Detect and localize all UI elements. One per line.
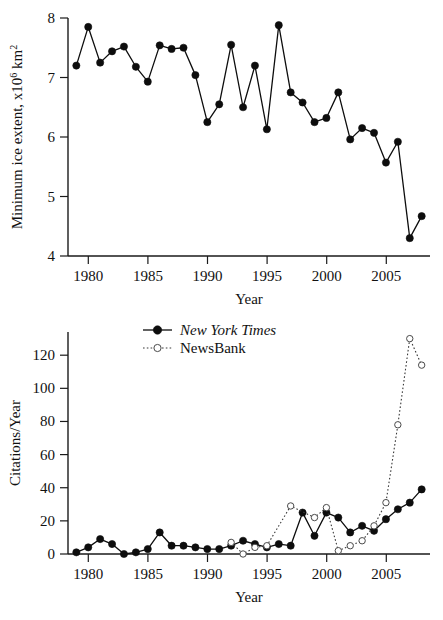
cite-y-axis-title: Citations/Year xyxy=(7,400,23,486)
caption-fragment xyxy=(0,610,443,620)
ice-extent-data-point xyxy=(370,129,377,136)
ice-ytick-label-7: 7 xyxy=(48,70,56,86)
ice-extent-data-point xyxy=(359,124,366,131)
ice-extent-data-point xyxy=(394,138,401,145)
ice-extent-data-point xyxy=(251,62,258,69)
cite-x-axis-title: Year xyxy=(235,589,263,605)
ice-xtick-label-1990: 1990 xyxy=(193,268,223,284)
citations-data-point-series-0 xyxy=(97,535,104,542)
ice-extent-data-point xyxy=(132,63,139,70)
citations-data-point-series-0 xyxy=(192,544,199,551)
citations-data-point-series-0 xyxy=(144,545,151,552)
citations-data-point-series-0 xyxy=(347,529,354,536)
citations-data-point-series-1 xyxy=(252,544,258,550)
cite-ytick-label: 120 xyxy=(33,347,56,363)
ice-ytick-label-4: 4 xyxy=(48,248,56,264)
citations-data-point-series-0 xyxy=(287,542,294,549)
chart-panel-citations: 020406080100120 1980 1985 1990 1995 2000… xyxy=(0,310,443,610)
ice-extent-data-point xyxy=(204,119,211,126)
legend-marker-filled-circle-icon xyxy=(153,326,161,334)
legend-marker-open-circle-icon xyxy=(154,344,161,351)
ice-extent-data-point xyxy=(180,44,187,51)
ice-extent-data-point xyxy=(120,43,127,50)
ice-xtick-label-2000: 2000 xyxy=(312,268,342,284)
ice-xtick-label-1985: 1985 xyxy=(133,268,163,284)
citations-data-point-series-1 xyxy=(347,543,353,549)
citations-data-point-series-0 xyxy=(180,542,187,549)
citations-data-point-series-0 xyxy=(73,549,80,556)
citations-data-point-series-1 xyxy=(240,551,246,557)
citations-data-point-series-0 xyxy=(335,514,342,521)
ice-extent-data-point xyxy=(406,235,413,242)
ice-y-axis-title-sup-2: 2 xyxy=(8,45,19,50)
citations-data-point-series-0 xyxy=(204,545,211,552)
citations-svg: 020406080100120 1980 1985 1990 1995 2000… xyxy=(0,310,443,610)
cite-xtick-label-2005: 2005 xyxy=(371,566,401,582)
cite-ytick-label: 60 xyxy=(40,447,55,463)
citations-data-point-series-0 xyxy=(311,532,318,539)
ice-ytick-label-6: 6 xyxy=(48,129,56,145)
ice-xtick-label-1995: 1995 xyxy=(252,268,282,284)
ice-extent-data-point xyxy=(299,99,306,106)
ice-extent-data-point xyxy=(323,114,330,121)
ice-extent-data-point xyxy=(216,101,223,108)
citations-data-point-series-1 xyxy=(228,539,234,545)
ice-extent-data-point xyxy=(168,45,175,52)
ice-ytick-label-8: 8 xyxy=(48,10,56,26)
citations-data-point-series-0 xyxy=(156,529,163,536)
ice-extent-svg: 4 5 6 7 8 1980 1985 1990 1995 2000 2005 … xyxy=(0,0,443,310)
legend-label-newsbank: NewsBank xyxy=(180,340,246,356)
cite-ytick-label: 20 xyxy=(40,513,55,529)
citations-data-point-series-1 xyxy=(323,504,329,510)
ice-y-axis-title: Minimum ice extent, x106 km2 xyxy=(8,45,25,230)
legend-entry-newsbank[interactable]: NewsBank xyxy=(143,340,246,356)
legend-entry-new-york-times[interactable]: New York Times xyxy=(143,322,276,338)
citations-data-point-series-0 xyxy=(275,540,282,547)
ice-extent-data-point xyxy=(228,41,235,48)
citations-data-point-series-0 xyxy=(108,540,115,547)
cite-ytick-label: 40 xyxy=(40,480,55,496)
citations-data-point-series-0 xyxy=(382,516,389,523)
citations-data-point-series-1 xyxy=(335,547,341,553)
ice-extent-data-point xyxy=(144,78,151,85)
ice-extent-data-point xyxy=(418,213,425,220)
ice-extent-data-point xyxy=(108,48,115,55)
citations-data-point-series-1 xyxy=(407,335,413,341)
citations-data-point-series-1 xyxy=(418,362,424,368)
cite-xtick-label-1990: 1990 xyxy=(193,566,223,582)
ice-ytick-label-5: 5 xyxy=(48,189,56,205)
ice-extent-series xyxy=(73,22,426,242)
ice-xtick-label-1980: 1980 xyxy=(73,268,103,284)
ice-extent-data-point xyxy=(275,22,282,29)
citations-data-point-series-0 xyxy=(239,537,246,544)
cite-xtick-label-1985: 1985 xyxy=(133,566,163,582)
citations-data-point-series-1 xyxy=(371,523,377,529)
citations-data-point-series-0 xyxy=(85,544,92,551)
citations-data-point-series-1 xyxy=(264,543,270,549)
ice-extent-data-point xyxy=(156,42,163,49)
citations-data-point-series-0 xyxy=(216,545,223,552)
citations-line-series-1 xyxy=(231,339,422,554)
ice-extent-data-point xyxy=(73,62,80,69)
citations-data-point-series-0 xyxy=(168,542,175,549)
ice-extent-data-point xyxy=(192,72,199,79)
citations-data-point-series-1 xyxy=(383,499,389,505)
ice-y-ticks xyxy=(60,18,68,256)
cite-ytick-label: 100 xyxy=(33,380,56,396)
legend-label-new-york-times: New York Times xyxy=(179,322,276,338)
citations-series xyxy=(73,335,426,557)
ice-x-ticks xyxy=(88,256,386,264)
ice-y-axis-title-middle: km xyxy=(9,49,25,72)
citations-data-point-series-1 xyxy=(287,503,293,509)
cite-y-ticks xyxy=(60,355,68,554)
cite-ytick-label: 0 xyxy=(48,546,56,562)
ice-x-axis-title: Year xyxy=(235,291,263,307)
ice-extent-data-point xyxy=(239,104,246,111)
ice-extent-data-point xyxy=(347,136,354,143)
citations-data-point-series-0 xyxy=(359,522,366,529)
citations-data-point-series-1 xyxy=(311,514,317,520)
citations-data-point-series-0 xyxy=(406,499,413,506)
ice-extent-data-point xyxy=(85,23,92,30)
citations-data-point-series-0 xyxy=(132,549,139,556)
cite-xtick-label-1980: 1980 xyxy=(73,566,103,582)
